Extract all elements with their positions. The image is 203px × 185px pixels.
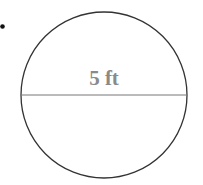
bullet-dot bbox=[0, 24, 5, 29]
circle-diagram: 5 ft bbox=[0, 0, 203, 185]
diameter-label: 5 ft bbox=[89, 66, 119, 90]
